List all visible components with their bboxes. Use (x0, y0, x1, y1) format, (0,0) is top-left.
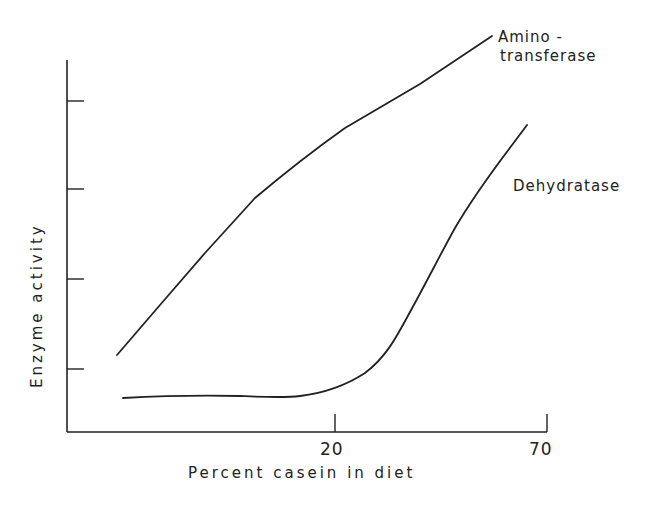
series-aminotransferase-line (117, 36, 492, 355)
y-ticks (67, 101, 84, 369)
series-label-aminotransferase: Amino - transferase (498, 28, 596, 66)
x-axis-title: Percent casein in diet (188, 464, 415, 482)
series-dehydratase-line (123, 125, 527, 398)
series-label-amino-line1: Amino - (498, 28, 596, 47)
chart-canvas (0, 0, 657, 507)
x-tick-label-20: 20 (320, 439, 344, 459)
x-ticks (335, 414, 547, 432)
series-label-amino-line2: transferase (498, 47, 596, 66)
x-tick-label-70: 70 (529, 439, 553, 459)
series-label-dehydratase: Dehydratase (513, 177, 620, 196)
y-axis-title: Enzyme activity (28, 223, 46, 388)
